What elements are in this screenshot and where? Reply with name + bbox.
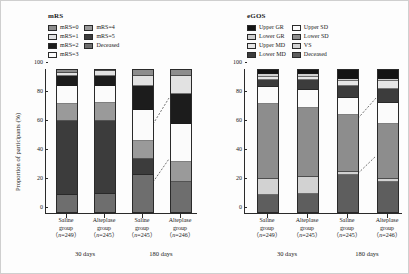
legend-item-deceased: Deceased: [84, 42, 119, 49]
bar-segment-mrs-3: [171, 124, 191, 162]
legend-label: Lower SD: [304, 33, 329, 40]
legend-label: Upper GR: [259, 24, 284, 31]
bar-segment-mrs-1: [171, 76, 191, 94]
legend-label: VS: [304, 42, 312, 49]
bar-segment-deceased: [298, 194, 318, 212]
legend-egos: Upper GRUpper SDLower GRLower SDUpper MD…: [247, 24, 329, 58]
legend-swatch-icon: [247, 25, 256, 31]
legend-item-mrs-4: mRS=4: [84, 24, 119, 31]
x-label-group: group: [364, 225, 409, 233]
stacked-bar[interactable]: [94, 69, 116, 213]
x-axis-group-label: Alteplasegroup（n=246）: [364, 217, 409, 240]
y-axis-tick-40: 40: [37, 146, 46, 152]
stacked-bar[interactable]: [56, 69, 78, 213]
y-axis-tick-100: 100: [34, 59, 46, 65]
bar-segment-deceased: [57, 195, 77, 212]
bar-segment-deceased: [258, 195, 278, 212]
bar-segment-lower-sd: [378, 124, 398, 179]
x-axis-time-label: 180 days: [328, 250, 406, 257]
x-axis-group-label: Alteplasegroup（n=246）: [157, 217, 203, 240]
legend-item-lower-md: Lower MD: [247, 51, 286, 58]
legend-item-upper-md: Upper MD: [247, 42, 286, 49]
legend-item-vs: VS: [292, 42, 329, 49]
bar-segment-lower-md: [298, 80, 318, 90]
legend-swatch-icon: [48, 43, 57, 49]
x-axis-time-label: 30 days: [46, 250, 124, 257]
x-axis-time-label: 30 days: [248, 250, 326, 257]
stacked-bar[interactable]: [377, 69, 399, 213]
y-axis-tick-20: 20: [236, 175, 245, 181]
legend-swatch-icon: [84, 34, 93, 40]
stacked-bar[interactable]: [257, 69, 279, 213]
bar-segment-upper-gr: [338, 70, 358, 79]
bar-segment-lower-sd: [258, 104, 278, 179]
bar-segment-upper-sd: [298, 90, 318, 108]
plot-area-mrs: 020406080100: [45, 69, 197, 214]
bar-segment-mrs-2: [171, 94, 191, 124]
legend-label: Upper MD: [259, 42, 285, 49]
legend-swatch-icon: [292, 34, 301, 40]
bar-segment-mrs-1: [133, 76, 153, 86]
bar-segment-deceased: [378, 182, 398, 212]
legend-item-mrs-3: mRS=3: [48, 51, 78, 58]
legend-label: mRS=0: [60, 24, 78, 31]
legend-label: mRS=3: [60, 51, 78, 58]
legend-item-deceased: Deceased: [292, 51, 329, 58]
bar-segment-upper-sd: [378, 103, 398, 124]
legend-label: Deceased: [304, 51, 327, 58]
plot-area-egos: 020406080100: [244, 69, 402, 214]
legend-item-mrs-5: mRS=5: [84, 33, 119, 40]
bar-segment-upper-gr: [378, 70, 398, 79]
legend-item-lower-sd: Lower SD: [292, 33, 329, 40]
legend-swatch-icon: [292, 43, 301, 49]
bar-segment-mrs-3: [133, 110, 153, 141]
legend-swatch-icon: [48, 25, 57, 31]
bar-segment-lower-sd: [338, 115, 358, 172]
bar-segment-mrs-5: [57, 121, 77, 195]
y-axis-tick-100: 100: [233, 59, 245, 65]
legend-label: Lower MD: [259, 51, 286, 58]
legend-item-mrs-1: mRS=1: [48, 33, 78, 40]
bar-segment-mrs-2: [95, 76, 115, 86]
panel-egos: eGOS Upper GRUpper SDLower GRLower SDUpp…: [206, 1, 409, 274]
x-label-n: （n=246）: [157, 232, 203, 240]
bar-segment-upper-sd: [258, 87, 278, 104]
panel-mrs: mRS mRS=0mRS=4mRS=1mRS=5mRS=2DeceasedmRS…: [1, 1, 206, 274]
legend-item-upper-gr: Upper GR: [247, 24, 286, 31]
legend-swatch-icon: [247, 43, 256, 49]
bar-segment-mrs-5: [95, 121, 115, 193]
legend-item-mrs-2: mRS=2: [48, 42, 78, 49]
y-axis-tick-0: 0: [239, 204, 245, 210]
bar-segment-vs: [258, 179, 278, 195]
legend-label: mRS=4: [96, 24, 114, 31]
legend-swatch-icon: [84, 25, 93, 31]
x-label-group: group: [157, 225, 203, 233]
legend-item-lower-gr: Lower GR: [247, 33, 286, 40]
bar-segment-lower-md: [258, 80, 278, 87]
stacked-bar[interactable]: [337, 69, 359, 213]
stacked-bar[interactable]: [297, 69, 319, 213]
bar-segment-lower-md: [378, 89, 398, 103]
x-axis-time-label: 180 days: [122, 250, 200, 257]
legend-swatch-icon: [292, 25, 301, 31]
bar-segment-mrs-5: [133, 159, 153, 175]
bar-segment-upper-sd: [338, 98, 358, 115]
legend-mrs: mRS=0mRS=4mRS=1mRS=5mRS=2DeceasedmRS=3: [48, 24, 119, 58]
legend-item-mrs-0: mRS=0: [48, 24, 78, 31]
bar-segment-deceased: [338, 175, 358, 212]
y-axis-tick-80: 80: [37, 88, 46, 94]
stacked-bar[interactable]: [170, 69, 192, 213]
panel-title-egos: eGOS: [247, 12, 266, 20]
bar-segment-mrs-3: [95, 86, 115, 103]
bar-segment-lower-md: [338, 86, 358, 99]
legend-label: Upper SD: [304, 24, 328, 31]
legend-swatch-icon: [84, 43, 93, 49]
y-axis-tick-60: 60: [37, 117, 46, 123]
stacked-bar[interactable]: [132, 69, 154, 213]
bar-segment-mrs-3: [57, 86, 77, 104]
panel-title-mrs: mRS: [48, 12, 63, 20]
legend-swatch-icon: [292, 52, 301, 58]
y-axis-tick-60: 60: [236, 117, 245, 123]
bar-segment-mrs-2: [57, 76, 77, 86]
y-axis-title: Proportion of participants (%): [14, 113, 21, 191]
